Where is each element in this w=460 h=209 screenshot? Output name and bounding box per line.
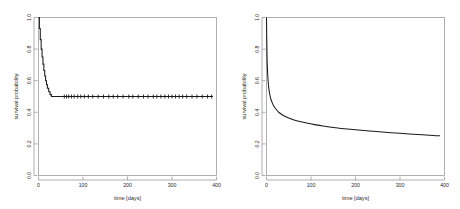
left-ytick-label-1: 0.2 bbox=[26, 140, 32, 147]
right-ytick-label-4: 0.8 bbox=[254, 45, 260, 52]
left-xtick-label-0: 0 bbox=[37, 182, 40, 188]
right-xtick-label-4: 400 bbox=[440, 182, 449, 188]
left-plot-svg: 1.0 0.8 0.6 0.4 0.2 0.0 0 100 200 300 40… bbox=[0, 0, 230, 209]
panel-kaplan-meier: 1.0 0.8 0.6 0.4 0.2 0.0 0 100 200 300 40… bbox=[0, 0, 230, 209]
left-ytick-label-3: 0.6 bbox=[26, 77, 32, 84]
right-xtick-label-0: 0 bbox=[265, 182, 268, 188]
right-plot-background bbox=[230, 0, 460, 209]
right-ytick-label-2: 0.4 bbox=[254, 109, 260, 116]
left-plot-background bbox=[0, 0, 230, 209]
right-xtick-label-2: 200 bbox=[351, 182, 360, 188]
panel-parametric: 1.0 0.8 0.6 0.4 0.2 0.0 0 100 200 300 40… bbox=[230, 0, 460, 209]
survival-curves-figure: 1.0 0.8 0.6 0.4 0.2 0.0 0 100 200 300 40… bbox=[0, 0, 460, 209]
right-xtick-label-3: 300 bbox=[396, 182, 405, 188]
left-xtick-label-1: 100 bbox=[79, 182, 88, 188]
right-ytick-label-3: 0.6 bbox=[254, 77, 260, 84]
right-yaxis-title: survival probability bbox=[241, 73, 247, 119]
right-xtick-label-1: 100 bbox=[307, 182, 316, 188]
right-plot-svg: 1.0 0.8 0.6 0.4 0.2 0.0 0 100 200 300 40… bbox=[230, 0, 460, 209]
left-xtick-label-2: 200 bbox=[123, 182, 132, 188]
left-xtick-label-3: 300 bbox=[168, 182, 177, 188]
left-yaxis-title: survival probability bbox=[13, 73, 19, 119]
left-ytick-label-5: 1.0 bbox=[26, 14, 32, 21]
right-xaxis-title: time [days] bbox=[342, 195, 369, 201]
right-ytick-label-5: 1.0 bbox=[254, 14, 260, 21]
left-ytick-label-4: 0.8 bbox=[26, 45, 32, 52]
right-ytick-label-1: 0.2 bbox=[254, 140, 260, 147]
right-ytick-label-0: 0.0 bbox=[254, 172, 260, 179]
left-xtick-label-4: 400 bbox=[212, 182, 221, 188]
left-ytick-label-2: 0.4 bbox=[26, 109, 32, 116]
left-ytick-label-0: 0.0 bbox=[26, 172, 32, 179]
left-xaxis-title: time [days] bbox=[114, 195, 141, 201]
